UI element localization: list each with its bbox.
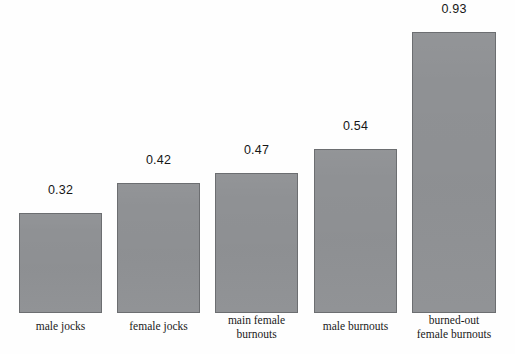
category-label-female-jocks: female jocks: [117, 313, 200, 334]
bar-group-female-jocks: 0.42: [117, 0, 200, 313]
category-label-burned-out-female-burnouts: burned-out female burnouts: [404, 313, 504, 341]
bar-main-female-burnouts[interactable]: [215, 173, 298, 313]
bar-male-jocks[interactable]: [19, 213, 102, 313]
category-label-main-female-burnouts: main female burnouts: [209, 313, 304, 341]
bar-burned-out-female-burnouts[interactable]: [412, 32, 496, 313]
bar-value-label: 0.93: [412, 2, 496, 16]
plot-area: 0.32 0.42 0.47 0.54 0.93: [0, 0, 515, 313]
category-label-line-1: male burnouts: [310, 320, 401, 334]
bar-value-label: 0.47: [215, 143, 298, 157]
bar-chart: 0.32 0.42 0.47 0.54 0.93 male jocks: [0, 0, 515, 354]
bar-value-label: 0.54: [314, 119, 397, 133]
bar-value-label: 0.32: [19, 183, 102, 197]
bar-male-burnouts[interactable]: [314, 149, 397, 313]
category-label-line-1: main female: [209, 314, 304, 328]
category-label-line-1: female jocks: [117, 320, 200, 334]
bar-group-burned-out-female-burnouts: 0.93: [412, 0, 496, 313]
category-label-line-1: male jocks: [19, 320, 102, 334]
category-label-line-1: burned-out: [404, 314, 504, 328]
category-label-line-2: burnouts: [209, 328, 304, 342]
bar-value-label: 0.42: [117, 153, 200, 167]
category-axis-labels: male jocks female jocks main female burn…: [0, 313, 515, 354]
bar-female-jocks[interactable]: [117, 183, 200, 313]
bar-group-male-jocks: 0.32: [19, 0, 102, 313]
bar-group-male-burnouts: 0.54: [314, 0, 397, 313]
bar-group-main-female-burnouts: 0.47: [215, 0, 298, 313]
category-label-male-jocks: male jocks: [19, 313, 102, 334]
category-label-line-2: female burnouts: [404, 328, 504, 342]
category-label-male-burnouts: male burnouts: [310, 313, 401, 334]
